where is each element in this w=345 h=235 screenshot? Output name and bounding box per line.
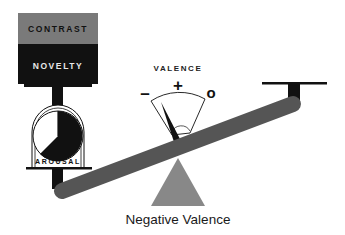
upper-stem — [52, 87, 63, 107]
novelty-label: NOVELTY — [33, 61, 84, 71]
valence-zero-symbol: o — [206, 84, 215, 101]
arousal-gauge: AROUSAL — [26, 105, 92, 170]
arousal-label: AROUSAL — [35, 158, 81, 165]
valence-minus-symbol: – — [140, 84, 149, 103]
stimulus-box: CONTRAST NOVELTY — [18, 13, 98, 87]
diagram-caption: Negative Valence — [126, 212, 231, 227]
contrast-label: CONTRAST — [28, 24, 88, 34]
valence-title: VALENCE — [154, 64, 203, 73]
balance-diagram: CONTRAST NOVELTY AROUSAL VALENCE – + o N… — [0, 0, 345, 235]
fulcrum-triangle — [151, 158, 205, 206]
valence-dial-sector — [151, 92, 205, 135]
